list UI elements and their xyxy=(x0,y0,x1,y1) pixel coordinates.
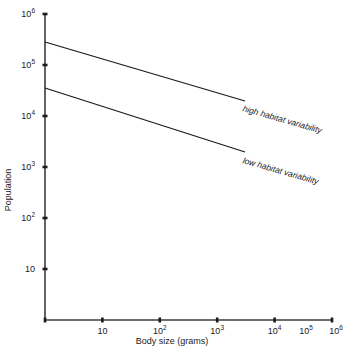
x-tick-label-100: 102 xyxy=(153,327,167,336)
y-tick-label-10000: 104 xyxy=(0,112,35,121)
y-tick-label-100000: 105 xyxy=(0,61,35,70)
x-tick-label-10000: 104 xyxy=(268,327,282,336)
series-line-low-habitat-variability xyxy=(45,88,245,152)
x-axis-title: Body size (grams) xyxy=(136,336,209,346)
x-tick-label-10: 10 xyxy=(97,327,107,336)
y-tick-label-10: 10 xyxy=(0,265,35,274)
y-tick-label-100: 102 xyxy=(0,214,35,223)
y-axis-title: Population xyxy=(3,169,13,212)
x-tick-label-1000: 103 xyxy=(210,327,224,336)
series-line-high-habitat-variability xyxy=(45,42,245,101)
x-tick-label-100000: 105 xyxy=(299,327,313,336)
population-vs-body-size-chart: 106 105 104 103 102 10 10 102 103 104 10… xyxy=(0,0,344,353)
x-tick-label-1000000: 106 xyxy=(329,327,343,336)
y-tick-label-1000000: 106 xyxy=(0,10,35,19)
